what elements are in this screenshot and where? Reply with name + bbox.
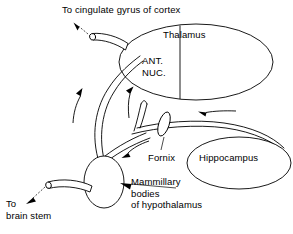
fornix-label: Fornix — [148, 152, 175, 164]
anterior-nucleus-label-line1: ANT. — [142, 55, 163, 66]
mammillary-label-line2: bodies — [131, 188, 160, 199]
to-cingulate-gyrus-label: To cingulate gyrus of cortex — [62, 4, 180, 16]
flow-arrow-body-head — [198, 112, 207, 117]
to-brain-stem-label-line1: To — [6, 198, 16, 209]
mammillary-bodies-label: Mammillarybodiesof hypothalamus — [131, 176, 202, 211]
flow-arrow-left-head — [76, 88, 83, 96]
flow-arrow-descend-head — [122, 153, 131, 158]
to-brain-stem-label-line2: brain stem — [6, 210, 51, 221]
flow-arrow-body-shaft — [206, 111, 236, 113]
mammillary-body-shape — [84, 156, 124, 208]
flow-arrow-mid-shaft — [128, 94, 130, 118]
anterior-nucleus-label: ANT.NUC. — [142, 55, 166, 78]
to-brain-stem-label: Tobrain stem — [6, 198, 51, 221]
cingulate-arrow-head — [74, 23, 80, 31]
thalamus-label: Thalamus — [163, 29, 206, 41]
fornix-column2-cap — [141, 101, 147, 104]
fornix-column2-inner — [140, 104, 147, 128]
mammillary-label-line1: Mammillary — [131, 176, 181, 187]
mammillary-label-line3: of hypothalamus — [131, 199, 202, 210]
anterior-nucleus-label-line2: NUC. — [142, 67, 166, 78]
flow-arrow-left-shaft — [73, 96, 81, 123]
brainstem-arrow-shaft — [33, 187, 45, 198]
fornix-label-leader — [161, 137, 164, 150]
hippocampus-label: Hippocampus — [199, 152, 258, 164]
cingulate-tract-tube — [93, 33, 129, 50]
cingulate-arrow-shaft — [79, 27, 88, 35]
flow-arrow-mid-head — [126, 87, 134, 95]
anatomy-diagram: To cingulate gyrus of cortex Thalamus AN… — [0, 0, 293, 234]
